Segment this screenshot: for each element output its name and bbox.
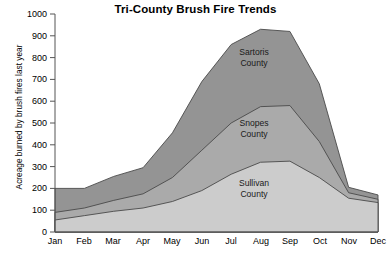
- series-label-snopes-county: Snopes County: [218, 118, 290, 139]
- series-label-sullivan-line1: Sullivan: [214, 178, 294, 189]
- series-label-sartoris-line1: Sartoris: [218, 47, 290, 58]
- series-label-sartoris-county: Sartoris County: [218, 47, 290, 68]
- series-label-sullivan-county: Sullivan County: [214, 178, 294, 199]
- series-label-sartoris-line2: County: [218, 58, 290, 69]
- series-label-snopes-line2: County: [218, 129, 290, 140]
- stacked-areas: [55, 29, 378, 232]
- series-label-snopes-line1: Snopes: [218, 118, 290, 129]
- plot-area: [0, 0, 391, 261]
- chart-container: Tri-County Brush Fire Trends Acreage bur…: [0, 0, 391, 261]
- y-tick-marks: [50, 14, 55, 232]
- series-label-sullivan-line2: County: [214, 189, 294, 200]
